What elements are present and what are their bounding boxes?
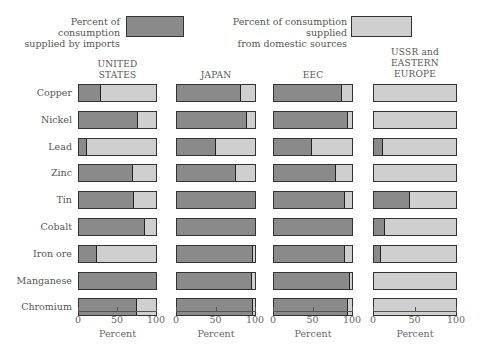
stacked-bar xyxy=(273,272,353,290)
x-axis-tick-label: 100 xyxy=(147,314,165,325)
imports-segment xyxy=(374,139,383,155)
x-axis-tick xyxy=(373,307,374,311)
x-axis-tick xyxy=(156,307,157,311)
stacked-bar xyxy=(78,164,157,182)
legend-domestic-label: Percent of consumption supplied from dom… xyxy=(190,16,347,49)
stacked-bar xyxy=(176,272,256,290)
imports-segment xyxy=(79,246,97,262)
imports-segment xyxy=(79,299,137,315)
stacked-bar xyxy=(176,245,256,263)
imports-segment xyxy=(177,165,236,181)
stacked-bar xyxy=(176,164,256,182)
x-axis-tick-label: 50 xyxy=(209,314,221,325)
imports-segment xyxy=(274,273,350,289)
imports-segment xyxy=(177,246,253,262)
stacked-bar xyxy=(373,245,457,263)
panel-title-line: USSR and xyxy=(373,47,457,58)
imports-segment xyxy=(79,192,134,208)
imports-segment xyxy=(79,85,101,101)
stacked-bar xyxy=(176,84,256,102)
imports-segment xyxy=(177,273,252,289)
stacked-bar xyxy=(273,84,353,102)
imports-segment xyxy=(79,165,133,181)
stacked-bar xyxy=(273,164,353,182)
stacked-bar xyxy=(373,164,457,182)
stacked-bar xyxy=(176,111,256,129)
x-axis-tick xyxy=(78,307,79,311)
stacked-bar xyxy=(373,111,457,129)
legend-imports-swatch xyxy=(126,16,184,37)
imports-segment xyxy=(274,246,345,262)
stacked-bar xyxy=(78,191,157,209)
x-axis-tick xyxy=(255,307,256,311)
imports-segment xyxy=(177,192,255,208)
legend-imports-label: Percent of consumption supplied by impor… xyxy=(10,16,120,49)
x-axis-tick-label: 0 xyxy=(75,314,81,325)
stacked-bar xyxy=(176,138,256,156)
stacked-bar xyxy=(78,84,157,102)
panel-title-line: EEC xyxy=(273,70,353,81)
stacked-bar xyxy=(273,138,353,156)
imports-segment xyxy=(274,299,348,315)
x-axis-tick-label: 0 xyxy=(173,314,179,325)
stacked-bar xyxy=(176,218,256,236)
imports-segment xyxy=(177,219,255,235)
x-axis-tick xyxy=(273,307,274,311)
panel-title-line: UNITED xyxy=(78,59,157,70)
imports-segment xyxy=(274,219,352,235)
x-axis-line xyxy=(78,311,157,312)
panel-title-united-states: UNITED STATES xyxy=(78,59,157,81)
imports-segment xyxy=(274,85,342,101)
row-label: Copper xyxy=(4,87,72,98)
x-axis-tick-label: 50 xyxy=(111,314,123,325)
x-axis-title: Percent xyxy=(396,328,433,339)
row-label: Lead xyxy=(4,141,72,152)
imports-segment xyxy=(79,273,156,289)
x-axis-tick-label: 100 xyxy=(447,314,465,325)
stacked-bar xyxy=(373,218,457,236)
panel-title-japan: JAPAN xyxy=(176,70,256,81)
legend-imports-line2: supplied by imports xyxy=(10,38,120,49)
x-axis-title: Percent xyxy=(197,328,234,339)
x-axis-tick xyxy=(313,307,314,311)
x-axis-tick xyxy=(176,307,177,311)
stacked-bar xyxy=(373,84,457,102)
imports-segment xyxy=(79,139,87,155)
panel-title-ussr-eastern-europe: USSR and EASTERN EUROPE xyxy=(373,47,457,80)
x-axis-line xyxy=(373,311,457,312)
legend-domestic-swatch xyxy=(351,16,412,37)
imports-segment xyxy=(274,112,348,128)
legend-domestic-line1: Percent of consumption supplied xyxy=(190,16,347,38)
x-axis-tick xyxy=(415,307,416,311)
x-axis-tick xyxy=(216,307,217,311)
panel-title-line: STATES xyxy=(78,70,157,81)
x-axis-tick-label: 100 xyxy=(343,314,361,325)
stacked-bar xyxy=(273,191,353,209)
imports-segment xyxy=(374,219,385,235)
imports-segment xyxy=(79,112,138,128)
row-label: Cobalt xyxy=(4,221,72,232)
x-axis-tick-label: 50 xyxy=(306,314,318,325)
imports-segment xyxy=(374,246,381,262)
stacked-bar xyxy=(273,111,353,129)
stacked-bar xyxy=(273,218,353,236)
x-axis-tick xyxy=(352,307,353,311)
imports-segment xyxy=(274,139,312,155)
legend-imports-line1: Percent of consumption xyxy=(10,16,120,38)
imports-segment xyxy=(79,219,145,235)
imports-segment xyxy=(177,112,247,128)
stacked-bar xyxy=(78,218,157,236)
stacked-bar xyxy=(273,245,353,263)
imports-segment xyxy=(274,192,345,208)
row-label: Zinc xyxy=(4,167,72,178)
row-label: Manganese xyxy=(4,275,72,286)
x-axis-tick xyxy=(117,307,118,311)
stacked-bar xyxy=(78,272,157,290)
row-label: Chromium xyxy=(4,301,72,312)
legend-domestic-line2: from domestic sources xyxy=(190,38,347,49)
x-axis-tick xyxy=(456,307,457,311)
panel-title-line: EASTERN xyxy=(373,58,457,69)
row-label: Tin xyxy=(4,194,72,205)
panel-title-line: JAPAN xyxy=(176,70,256,81)
x-axis-tick-label: 50 xyxy=(408,314,420,325)
